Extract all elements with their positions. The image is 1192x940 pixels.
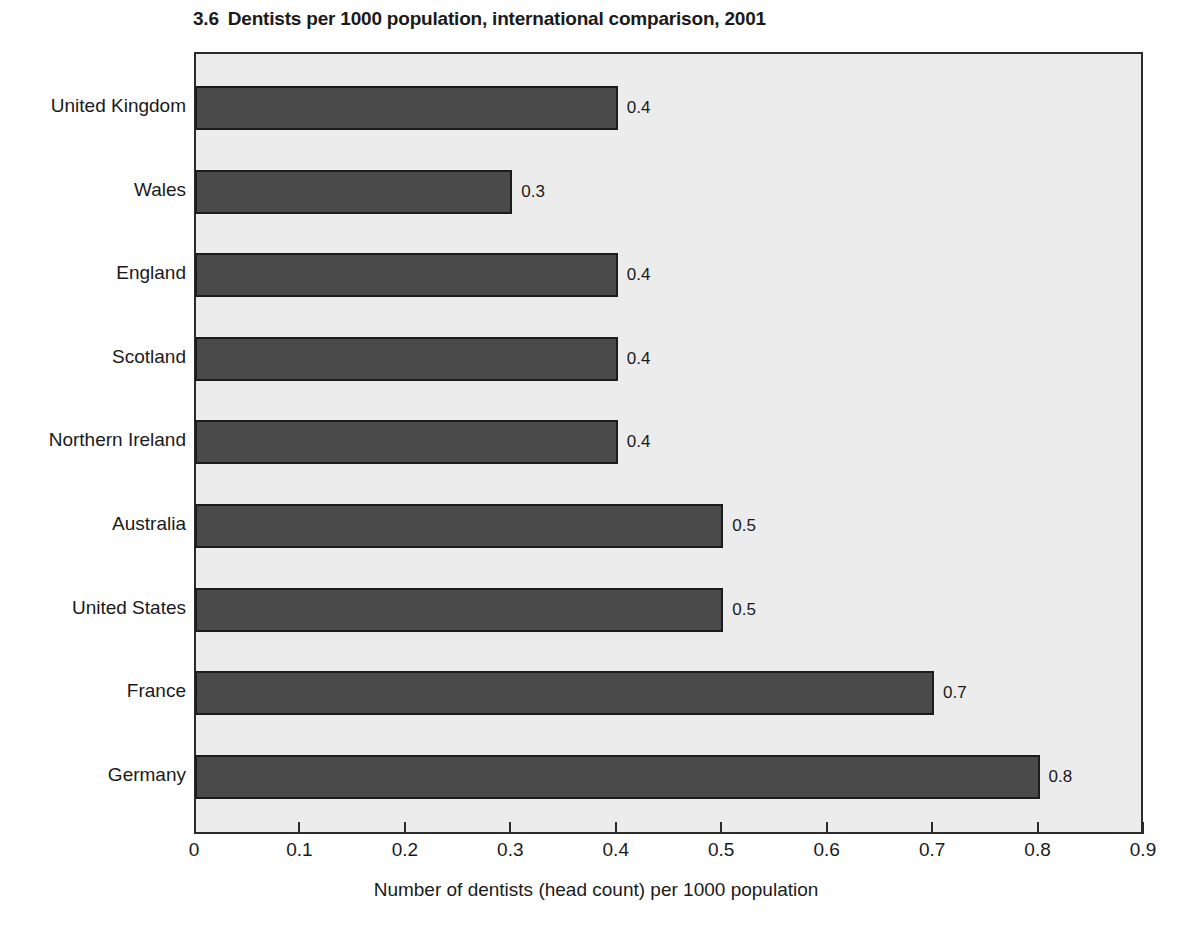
y-axis-category-label: France: [6, 680, 186, 702]
bar[interactable]: [195, 504, 723, 548]
x-axis-tick-mark: [1142, 822, 1144, 834]
bar-value-label: 0.4: [627, 432, 651, 452]
y-axis-category-label: England: [6, 262, 186, 284]
bar-value-label: 0.8: [1049, 767, 1073, 787]
y-axis-category-label: Northern Ireland: [6, 429, 186, 451]
bar-row: 0.5: [196, 504, 1145, 548]
y-axis-labels: United KingdomWalesEnglandScotlandNorthe…: [0, 52, 186, 834]
y-axis-category-label: Wales: [6, 179, 186, 201]
x-axis-tick-label: 0.2: [392, 839, 418, 861]
y-axis-category-label: Germany: [6, 764, 186, 786]
y-axis-category-label: United States: [6, 597, 186, 619]
x-axis-tick-label: 0.7: [919, 839, 945, 861]
x-axis-tick-label: 0: [189, 839, 200, 861]
plot-area: 0.40.30.40.40.40.50.50.70.8: [194, 52, 1143, 834]
x-axis-title: Number of dentists (head count) per 1000…: [0, 879, 1192, 901]
bar-value-label: 0.5: [732, 516, 756, 536]
bar[interactable]: [195, 337, 618, 381]
bar-row: 0.5: [196, 588, 1145, 632]
x-axis-tick-label: 0.1: [286, 839, 312, 861]
x-axis-tick-mark: [298, 822, 300, 834]
bar-row: 0.8: [196, 755, 1145, 799]
bar-row: 0.4: [196, 337, 1145, 381]
x-axis-tick-label: 0.8: [1024, 839, 1050, 861]
x-axis-tick-label: 0.6: [813, 839, 839, 861]
x-axis-tick-mark: [404, 822, 406, 834]
y-axis-category-label: Australia: [6, 513, 186, 535]
bar-value-label: 0.4: [627, 349, 651, 369]
bar-row: 0.4: [196, 253, 1145, 297]
x-axis-tick-label: 0.3: [497, 839, 523, 861]
figure-title-text: Dentists per 1000 population, internatio…: [228, 8, 766, 29]
x-axis-tick-mark: [509, 822, 511, 834]
bar[interactable]: [195, 253, 618, 297]
x-axis-tick-mark: [826, 822, 828, 834]
bar[interactable]: [195, 671, 934, 715]
x-axis-tick-label: 0.5: [708, 839, 734, 861]
x-axis-tick-mark: [720, 822, 722, 834]
bar-value-label: 0.7: [943, 683, 967, 703]
x-axis-tick-mark: [615, 822, 617, 834]
bar-row: 0.4: [196, 420, 1145, 464]
page-title: 3.6Dentists per 1000 population, interna…: [193, 8, 766, 30]
bar[interactable]: [195, 588, 723, 632]
bar-value-label: 0.5: [732, 600, 756, 620]
x-axis-tick-mark: [1037, 822, 1039, 834]
bar[interactable]: [195, 170, 512, 214]
bar-value-label: 0.4: [627, 98, 651, 118]
x-axis-tick-mark: [931, 822, 933, 834]
bar[interactable]: [195, 86, 618, 130]
bar-value-label: 0.3: [521, 182, 545, 202]
x-axis-tick-label: 0.9: [1130, 839, 1156, 861]
bar-row: 0.7: [196, 671, 1145, 715]
bar-row: 0.4: [196, 86, 1145, 130]
bar[interactable]: [195, 420, 618, 464]
bar[interactable]: [195, 755, 1040, 799]
y-axis-category-label: Scotland: [6, 346, 186, 368]
x-axis-tick-label: 0.4: [603, 839, 629, 861]
bar-value-label: 0.4: [627, 265, 651, 285]
y-axis-category-label: United Kingdom: [6, 95, 186, 117]
figure-number: 3.6: [193, 8, 219, 29]
bar-row: 0.3: [196, 170, 1145, 214]
